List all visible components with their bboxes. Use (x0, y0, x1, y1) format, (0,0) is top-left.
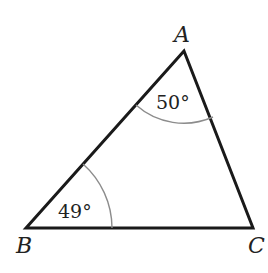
angle-label-b: 49° (58, 200, 92, 222)
triangle-diagram: A B C 50° 49° (0, 0, 268, 273)
vertex-label-c: C (248, 233, 265, 258)
vertex-label-b: B (15, 233, 32, 258)
vertex-label-a: A (172, 22, 190, 47)
angle-label-a: 50° (156, 91, 190, 113)
